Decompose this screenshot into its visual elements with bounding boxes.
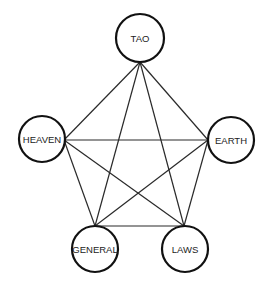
nodes-group: TAO HEAVEN EARTH GENERAL LAWS bbox=[19, 14, 254, 272]
edge-heaven-laws bbox=[64, 140, 184, 226]
node-heaven-label: HEAVEN bbox=[23, 134, 62, 145]
node-general[interactable]: GENERAL bbox=[72, 226, 118, 272]
node-heaven[interactable]: HEAVEN bbox=[19, 116, 65, 162]
edge-tao-heaven bbox=[64, 62, 140, 140]
edge-tao-general bbox=[95, 62, 140, 226]
edge-heaven-general bbox=[64, 140, 95, 226]
node-earth-label: EARTH bbox=[215, 135, 247, 146]
node-earth[interactable]: EARTH bbox=[208, 117, 254, 163]
edge-earth-laws bbox=[184, 140, 208, 226]
edges-group bbox=[64, 62, 208, 226]
node-laws[interactable]: LAWS bbox=[162, 226, 208, 272]
node-tao-label: TAO bbox=[131, 33, 150, 44]
five-elements-diagram: TAO HEAVEN EARTH GENERAL LAWS bbox=[0, 0, 268, 285]
node-tao[interactable]: TAO bbox=[116, 14, 164, 62]
node-general-label: GENERAL bbox=[72, 244, 117, 255]
node-laws-label: LAWS bbox=[172, 244, 199, 255]
edge-earth-general bbox=[95, 140, 208, 226]
